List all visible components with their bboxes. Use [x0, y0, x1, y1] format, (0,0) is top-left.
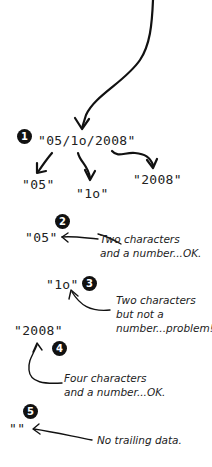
check-4-token: "2008" [14, 323, 63, 338]
check-3-token: "1o" [46, 277, 79, 292]
check-3-note-line-2: but not a [116, 307, 212, 321]
step-badge-3: 3 [82, 276, 97, 291]
check-4-note: Four characters and a number...OK. [64, 371, 165, 399]
step-badge-5: 5 [23, 404, 38, 419]
split-part-1o: "1o" [76, 186, 109, 201]
split-arrow-05 [38, 153, 52, 172]
step-badge-4: 4 [52, 341, 67, 356]
check-2-note-line-1: Two characters [100, 232, 201, 246]
step-badge-2: 2 [55, 214, 70, 229]
check-3-note: Two characters but not a number...proble… [116, 293, 212, 335]
check-4-arrowhead [33, 343, 42, 352]
step-badge-1: 1 [17, 129, 32, 144]
check-5-note-line-1: No trailing data. [97, 433, 182, 447]
check-2-note: Two characters and a number...OK. [100, 232, 201, 260]
split-arrow-2008 [112, 151, 153, 165]
check-4-note-line-2: and a number...OK. [64, 385, 165, 399]
check-5-note: No trailing data. [97, 433, 182, 447]
check-5-arrow [34, 429, 92, 440]
split-part-05: "05" [22, 177, 55, 192]
check-4-note-line-1: Four characters [64, 371, 165, 385]
check-5-token: "" [9, 421, 25, 436]
check-3-note-line-1: Two characters [116, 293, 212, 307]
check-3-arrow [72, 292, 110, 310]
check-3-note-line-3: number...problem! [116, 321, 212, 335]
incoming-arrowhead [75, 118, 89, 129]
check-2-note-line-2: and a number...OK. [100, 246, 201, 260]
incoming-arrow [82, 0, 153, 128]
split-part-2008: "2008" [133, 172, 182, 187]
check-2-token: "05" [25, 230, 58, 245]
source-string: "05/1o/2008" [38, 133, 136, 148]
